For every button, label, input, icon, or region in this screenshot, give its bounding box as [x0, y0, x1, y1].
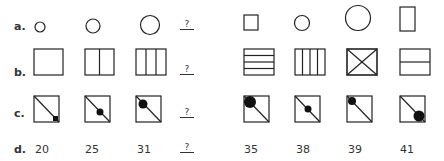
c-box-2	[85, 96, 110, 122]
b-option-vertical-lines[interactable]	[295, 49, 325, 75]
a-circle-medium	[86, 19, 100, 33]
row-label-d: d.	[14, 143, 26, 156]
c-option-2-dot	[305, 106, 312, 113]
d-option-4[interactable]: 41	[400, 143, 414, 156]
d-option-3[interactable]: 39	[348, 143, 362, 156]
b-box-2	[85, 49, 114, 75]
a-option-large-circle[interactable]	[346, 6, 371, 31]
row-c-blank[interactable]: ?	[180, 107, 194, 118]
d-sequence-2: 25	[85, 143, 99, 156]
figure-canvas	[0, 0, 444, 161]
row-d-blank[interactable]: ?	[180, 142, 194, 153]
b-box-3	[136, 49, 166, 75]
c-option-3-dot	[348, 97, 356, 105]
a-option-rectangle[interactable]	[400, 7, 415, 31]
a-option-square[interactable]	[244, 15, 258, 30]
row-label-c: c.	[14, 107, 25, 120]
b-option-split-box[interactable]	[400, 49, 430, 75]
c-box-1-dot	[53, 116, 58, 121]
b-option-horizontal-lines[interactable]	[244, 49, 274, 75]
c-option-1-dot	[244, 96, 256, 108]
row-b-blank[interactable]: ?	[180, 64, 194, 75]
row-label-b: b.	[14, 66, 26, 79]
a-option-circle[interactable]	[295, 16, 310, 31]
c-box-3	[136, 96, 161, 122]
b-box-1	[34, 49, 63, 75]
row-label-a: a.	[14, 20, 26, 33]
c-box-2-dot	[97, 109, 104, 116]
d-option-1[interactable]: 35	[244, 143, 258, 156]
d-sequence-1: 20	[35, 143, 49, 156]
c-option-4-dot	[414, 111, 425, 122]
d-sequence-3: 31	[137, 143, 151, 156]
d-option-2[interactable]: 38	[296, 143, 310, 156]
a-circle-large	[141, 16, 160, 35]
a-circle-small	[35, 22, 45, 32]
c-box-3-dot	[139, 100, 148, 109]
row-a-blank[interactable]: ?	[180, 19, 194, 30]
b-option-x-box[interactable]	[347, 49, 377, 75]
